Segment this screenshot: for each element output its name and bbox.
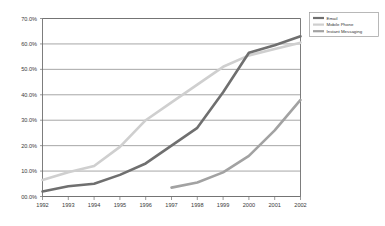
x-axis-tick-label: 2001 (268, 202, 280, 208)
x-axis-tick-label: 1994 (88, 202, 100, 208)
y-axis-tick-label: 70.0% (21, 16, 37, 22)
chart-canvas: 00.0%10.0%20.0%30.0%40.0%50.0%60.0%70.0%… (0, 0, 385, 226)
x-axis-tick-label: 2002 (294, 202, 306, 208)
y-axis-tick-label: 10.0% (21, 168, 37, 174)
y-axis-tick-label: 60.0% (21, 41, 37, 47)
legend-label: Instant Messaging (327, 29, 363, 34)
y-axis-tick-label: 40.0% (21, 92, 37, 98)
x-axis-tick-label: 2000 (243, 202, 255, 208)
x-axis-tick-label: 1995 (114, 202, 126, 208)
x-axis-tick-label: 1996 (139, 202, 151, 208)
legend-label: Mobile Phone (327, 22, 354, 27)
line-chart: 00.0%10.0%20.0%30.0%40.0%50.0%60.0%70.0%… (0, 0, 385, 226)
x-axis-tick-label: 1992 (36, 202, 48, 208)
y-axis-tick-label: 30.0% (21, 117, 37, 123)
x-axis-tick-label: 1993 (62, 202, 74, 208)
chart-legend: EmailMobile PhoneInstant Messaging (310, 13, 379, 37)
legend-label: Email (327, 16, 338, 21)
x-axis-tick-label: 1997 (165, 202, 177, 208)
x-axis-tick-label: 1999 (217, 202, 229, 208)
y-axis-tick-label: 50.0% (21, 66, 37, 72)
x-axis-tick-label: 1998 (191, 202, 203, 208)
y-axis-tick-label: 20.0% (21, 143, 37, 149)
y-axis-tick-label: 00.0% (21, 194, 37, 200)
